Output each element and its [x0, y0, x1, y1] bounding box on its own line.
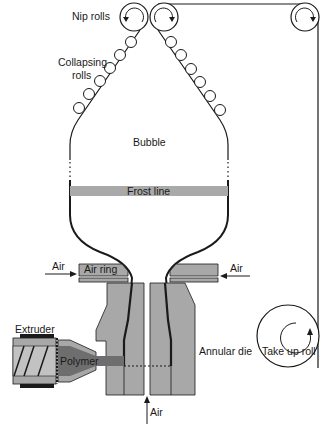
guide-roll	[291, 3, 319, 31]
bubble-outline-right	[158, 30, 228, 160]
bubble-outline-left	[70, 30, 140, 160]
collapsing-rolls-right	[166, 37, 226, 116]
arrowhead-icon	[144, 396, 150, 403]
label-annular-die: Annular die	[199, 345, 252, 357]
annular-die	[96, 283, 195, 395]
label-air-left: Air	[52, 260, 65, 272]
label-nip-rolls: Nip rolls	[72, 10, 110, 22]
arrowhead-icon	[220, 273, 227, 279]
die-left-half	[96, 283, 144, 395]
label-collapsing-rolls-2: rolls	[72, 69, 91, 81]
label-polymer: Polymer	[60, 355, 99, 367]
label-air-bottom: Air	[150, 406, 163, 418]
label-bubble: Bubble	[133, 136, 166, 148]
label-air-right: Air	[230, 262, 243, 274]
take-up-roll	[257, 305, 319, 367]
label-extruder: Extruder	[15, 323, 55, 335]
label-frost-line: Frost line	[127, 185, 170, 197]
heater-band-bottom	[20, 384, 54, 388]
blown-film-diagram: Nip rolls Collapsing rolls Bubble Frost …	[0, 0, 331, 431]
label-air-ring: Air ring	[84, 263, 117, 275]
arrowhead-icon	[70, 271, 77, 277]
label-take-up-roll: Take up roll	[262, 345, 316, 357]
nip-rolls	[120, 3, 178, 31]
air-ring-right	[170, 264, 218, 282]
label-collapsing-rolls: Collapsing	[58, 56, 107, 68]
die-right-half	[150, 283, 195, 395]
